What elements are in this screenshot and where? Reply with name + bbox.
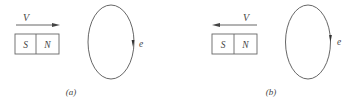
caption-a: (a) [66, 87, 77, 97]
panel-a: V S N e (a) [15, 5, 143, 97]
velocity-arrow-b: V [212, 12, 257, 27]
velocity-arrow-a: V [16, 12, 60, 27]
arrowhead-left-icon [212, 23, 220, 27]
caption-b: (b) [266, 87, 277, 97]
conducting-loop-b: e [286, 5, 342, 79]
magnet-pole-s-a: S [23, 40, 28, 50]
magnet-a: S N [15, 34, 59, 54]
panel-b: V S N e (b) [212, 5, 341, 97]
arrowhead-right-icon [52, 23, 60, 27]
magnet-pole-n-a: N [43, 40, 51, 50]
loop-arrow-down-icon [329, 35, 332, 42]
magnet-pole-s-b: S [221, 40, 226, 50]
emf-label-b: e [337, 37, 341, 47]
velocity-label-b: V [243, 12, 251, 23]
figure-canvas: V S N e (a) V [0, 0, 354, 106]
velocity-label-a: V [23, 12, 31, 23]
conducting-loop-a: e [88, 5, 143, 79]
diagram-svg: V S N e (a) V [0, 0, 354, 106]
emf-label-a: e [139, 39, 143, 49]
magnet-pole-n-b: N [241, 40, 249, 50]
magnet-b: S N [212, 34, 257, 54]
